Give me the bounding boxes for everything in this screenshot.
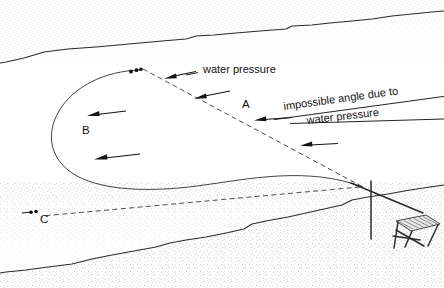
label-point-a: A <box>242 98 250 110</box>
trajectory-curve <box>51 70 363 189</box>
arrow-curve-upper <box>87 111 126 116</box>
label-point-c: C <box>40 213 49 225</box>
arrow-water-pressure-top <box>164 72 196 79</box>
upper-terrain-body <box>0 0 444 70</box>
intended-straight-path <box>143 69 363 187</box>
arrow-dashed-lower <box>300 141 338 146</box>
callout-impossible-angle-line2: water pressure <box>305 106 380 126</box>
diagram-root: A B C water pressure impossible angle du… <box>0 0 444 288</box>
arrow-point-a <box>254 116 292 121</box>
arrow-dashed-upper <box>194 91 230 99</box>
callout-impossible-angle-line1: impossible angle due to <box>283 84 399 112</box>
arrow-curve-lower <box>94 154 140 160</box>
engineering-diagram: A B C water pressure impossible angle du… <box>0 0 444 288</box>
label-point-b: B <box>82 124 90 136</box>
callout-water-pressure-top: water pressure <box>202 63 276 75</box>
